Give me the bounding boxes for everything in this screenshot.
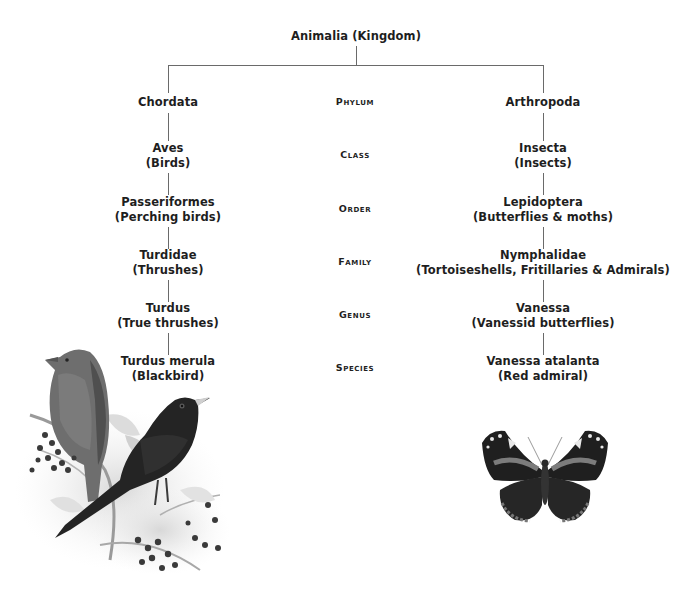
connector	[168, 173, 169, 195]
rank-order: Order	[339, 203, 371, 214]
taxon-common-name: (Thrushes)	[132, 263, 203, 278]
rank-genus: Genus	[339, 309, 371, 320]
rank-phylum: Phylum	[336, 96, 374, 107]
left-genus: Turdus (True thrushes)	[117, 301, 218, 331]
blackbird-illustration	[10, 340, 240, 590]
right-class: Insecta (Insects)	[514, 141, 572, 171]
taxon-name: Turdidae	[132, 248, 203, 263]
taxon-common-name: (Tortoiseshells, Fritillaries & Admirals…	[416, 263, 670, 278]
taxon-common-name: (Insects)	[514, 156, 572, 171]
taxon-name: Lepidoptera	[473, 195, 613, 210]
taxon-name: Vanessa	[471, 301, 614, 316]
right-order: Lepidoptera (Butterflies & moths)	[473, 195, 613, 225]
kingdom-connector	[356, 46, 357, 65]
taxon-common-name: (Vanessid butterflies)	[471, 316, 614, 331]
taxon-common-name: (Butterflies & moths)	[473, 210, 613, 225]
left-phylum: Chordata	[138, 95, 198, 110]
branch-connector	[168, 65, 544, 66]
rank-class: Class	[340, 149, 370, 160]
taxon-name: Nymphalidae	[416, 248, 670, 263]
right-branch-connector	[543, 65, 544, 93]
rank-species: Species	[336, 362, 375, 373]
taxon-name: Arthropoda	[506, 95, 581, 110]
connector	[543, 227, 544, 249]
rank-family: Family	[338, 256, 372, 267]
connector	[543, 113, 544, 141]
taxon-name: Chordata	[138, 95, 198, 110]
connector	[543, 173, 544, 195]
taxon-name: Turdus	[117, 301, 218, 316]
right-genus: Vanessa (Vanessid butterflies)	[471, 301, 614, 331]
connector	[543, 333, 544, 355]
taxon-name: Insecta	[514, 141, 572, 156]
connector	[168, 227, 169, 249]
right-species: Vanessa atalanta (Red admiral)	[486, 354, 599, 384]
taxon-name: Aves	[146, 141, 191, 156]
taxon-common-name: (Perching birds)	[115, 210, 221, 225]
right-family: Nymphalidae (Tortoiseshells, Fritillarie…	[416, 248, 670, 278]
left-family: Turdidae (Thrushes)	[132, 248, 203, 278]
left-order: Passeriformes (Perching birds)	[115, 195, 221, 225]
left-class: Aves (Birds)	[146, 141, 191, 171]
taxon-common-name: (Birds)	[146, 156, 191, 171]
taxon-common-name: (Red admiral)	[486, 369, 599, 384]
taxon-name: Vanessa atalanta	[486, 354, 599, 369]
taxon-name: Passeriformes	[115, 195, 221, 210]
right-phylum: Arthropoda	[506, 95, 581, 110]
connector	[168, 280, 169, 302]
kingdom-label: Animalia (Kingdom)	[291, 29, 421, 44]
left-branch-connector	[168, 65, 169, 93]
taxon-common-name: (True thrushes)	[117, 316, 218, 331]
connector	[168, 113, 169, 141]
connector	[543, 280, 544, 302]
red-admiral-illustration	[480, 425, 610, 525]
